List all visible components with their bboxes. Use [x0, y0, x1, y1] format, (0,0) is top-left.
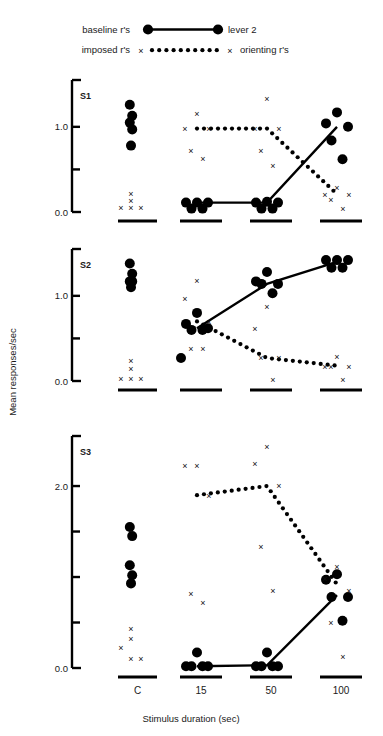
- imposed-point-S3-C: ×: [128, 654, 133, 664]
- imposed-point-S1-100: ×: [340, 204, 345, 214]
- dotted-line-dot: [237, 488, 241, 492]
- imposed-point-S1-C: ×: [138, 203, 143, 213]
- imposed-point-S1-C: ×: [128, 203, 133, 213]
- imposed-point-S1-100: ×: [328, 195, 333, 205]
- imposed-point-S1-15: ×: [188, 146, 193, 156]
- legend-label-baseline: baseline r's: [82, 24, 130, 35]
- dotted-line-dot: [306, 165, 310, 169]
- imposed-point-S1-50: ×: [264, 94, 269, 104]
- imposed-point-S3-50: ×: [276, 481, 281, 491]
- dotted-line-dot: [245, 345, 249, 349]
- imposed-point-S2-15: ×: [182, 294, 187, 304]
- dotted-line-dot: [230, 126, 234, 130]
- baseline-point-S1-50: [257, 204, 267, 214]
- baseline-point-S3-100: [338, 616, 348, 626]
- panel-label-S3: S3: [80, 447, 91, 457]
- dotted-line-dot: [195, 126, 199, 130]
- baseline-point-S2-C: [126, 282, 136, 292]
- dotted-line-dot: [223, 126, 227, 130]
- imposed-point-S2-50: ×: [276, 353, 281, 363]
- imposed-point-S2-100: ×: [328, 362, 333, 372]
- baseline-point-S3-C: [127, 531, 137, 541]
- dotted-line-dot: [243, 487, 247, 491]
- baseline-point-S1-50: [268, 204, 278, 214]
- baseline-point-S3-15: [198, 661, 208, 671]
- dotted-line-dot: [313, 552, 317, 556]
- imposed-point-S2-50: ×: [270, 375, 275, 385]
- dotted-line-dot: [264, 484, 268, 488]
- figure-root: baseline r'slever 2imposed r's××orientin…: [0, 0, 383, 736]
- x-category-label-15: 15: [195, 685, 207, 696]
- legend-dot: [215, 48, 219, 52]
- imposed-point-S1-100: ×: [334, 183, 339, 193]
- dotted-line-dot: [301, 160, 305, 164]
- baseline-point-S1-15: [198, 204, 208, 214]
- y-tick-label-S2-1: 1.0: [55, 290, 68, 301]
- imposed-point-S2-100: ×: [322, 362, 327, 372]
- baseline-point-S3-C: [125, 522, 135, 532]
- dotted-line-dot: [263, 355, 267, 359]
- baseline-point-S3-50: [268, 661, 278, 671]
- baseline-connecting-line-S1: [197, 127, 337, 203]
- imposed-point-S3-C: ×: [118, 643, 123, 653]
- dotted-line-dot: [258, 126, 262, 130]
- x-category-label-50: 50: [265, 685, 277, 696]
- dotted-line-dot: [232, 339, 236, 343]
- dotted-line-dot: [334, 580, 338, 584]
- legend-marker-circle-left: [143, 24, 153, 34]
- imposed-point-S1-15: ×: [206, 124, 211, 134]
- imposed-point-S2-100: ×: [340, 375, 345, 385]
- y-tick-label-S3-0: 0.0: [55, 663, 68, 674]
- dotted-line-dot: [195, 319, 199, 323]
- imposed-point-S3-100: ×: [346, 586, 351, 596]
- legend-marker-x-right: ×: [227, 46, 232, 56]
- baseline-point-S1-C: [126, 141, 136, 151]
- imposed-point-S2-100: ×: [346, 362, 351, 372]
- imposed-point-S1-15: ×: [182, 124, 187, 134]
- imposed-point-S2-15: ×: [194, 276, 199, 286]
- imposed-point-S3-15: ×: [200, 598, 205, 608]
- dotted-line-dot: [285, 512, 289, 516]
- dotted-line-dot: [316, 174, 320, 178]
- imposed-point-S3-50: ×: [270, 586, 275, 596]
- imposed-point-S3-50: ×: [264, 442, 269, 452]
- baseline-point-S2-15: [192, 308, 202, 318]
- legend-dot: [193, 48, 197, 52]
- imposed-point-S1-50: ×: [258, 146, 263, 156]
- imposed-point-S1-15: ×: [194, 109, 199, 119]
- dotted-line-dot: [230, 489, 234, 493]
- y-tick-label-S1-0: 0.0: [55, 207, 68, 218]
- dotted-line-dot: [257, 485, 261, 489]
- dotted-line-dot: [297, 529, 301, 533]
- dotted-line-dot: [298, 360, 302, 364]
- legend-dot: [179, 48, 183, 52]
- dotted-line-dot: [223, 489, 227, 493]
- dotted-line-dot: [237, 126, 241, 130]
- imposed-point-S3-100: ×: [322, 574, 327, 584]
- imposed-point-S2-50: ×: [252, 324, 257, 334]
- legend-label-lever2: lever 2: [228, 24, 257, 35]
- baseline-point-S1-100: [343, 122, 353, 132]
- dotted-line-dot: [251, 348, 255, 352]
- legend-dot: [150, 48, 154, 52]
- baseline-point-S2-100: [327, 263, 337, 273]
- dotted-line-dot: [216, 126, 220, 130]
- baseline-point-S2-100: [338, 263, 348, 273]
- dotted-line-dot: [326, 184, 330, 188]
- dotted-line-dot: [280, 141, 284, 145]
- baseline-point-S3-100: [327, 592, 337, 602]
- dotted-line-dot: [226, 336, 230, 340]
- imposed-point-S3-100: ×: [340, 652, 345, 662]
- legend-marker-x-left: ×: [138, 46, 143, 56]
- legend-label-orienting: orienting r's: [240, 44, 289, 55]
- imposed-point-S1-100: ×: [346, 190, 351, 200]
- dotted-line-dot: [195, 493, 199, 497]
- dotted-line-dot: [277, 501, 281, 505]
- baseline-point-S1-100: [338, 154, 348, 164]
- y-tick-label-S2-0: 0.0: [55, 376, 68, 387]
- baseline-point-S2-50: [268, 288, 278, 298]
- imposed-point-S3-C: ×: [128, 624, 133, 634]
- dotted-line-dot: [325, 569, 329, 573]
- dotted-line-dot: [269, 489, 273, 493]
- imposed-point-S2-C: ×: [138, 374, 143, 384]
